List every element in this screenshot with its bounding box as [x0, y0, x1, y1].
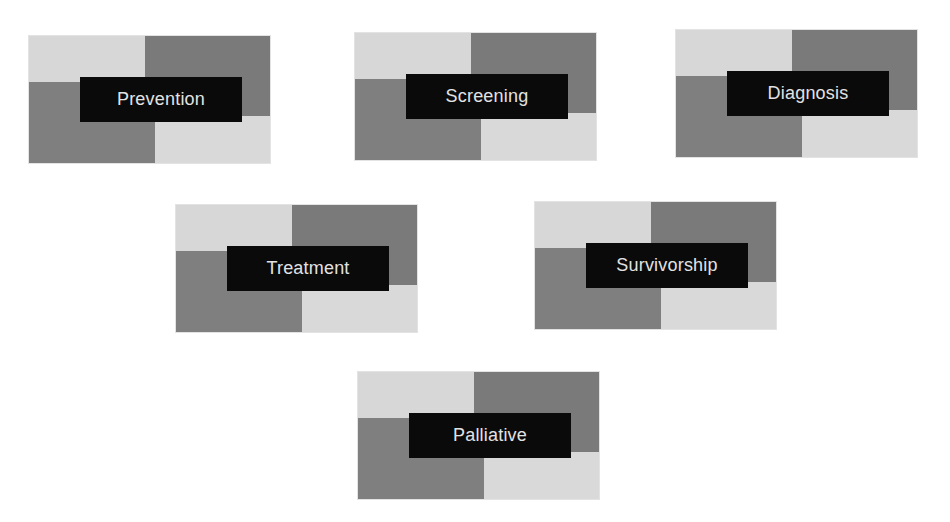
card-treatment[interactable]: Treatment — [176, 205, 417, 332]
quadrant-bottom-right — [484, 452, 599, 499]
quadrant-bottom-right — [661, 282, 776, 329]
quadrant-bottom-right — [302, 285, 417, 332]
quadrant-bottom-right — [481, 113, 596, 160]
card-label: Screening — [406, 74, 568, 119]
quadrant-top-left — [355, 33, 471, 79]
quadrant-top-left — [358, 372, 474, 418]
quadrant-top-left — [176, 205, 292, 251]
card-screening[interactable]: Screening — [355, 33, 596, 160]
card-label: Treatment — [227, 246, 389, 291]
quadrant-bottom-right — [155, 116, 270, 163]
card-diagnosis[interactable]: Diagnosis — [676, 30, 917, 157]
quadrant-top-left — [535, 202, 651, 248]
card-prevention[interactable]: Prevention — [29, 36, 270, 163]
card-palliative[interactable]: Palliative — [358, 372, 599, 499]
card-survivorship[interactable]: Survivorship — [535, 202, 776, 329]
quadrant-top-left — [676, 30, 792, 76]
card-label: Prevention — [80, 77, 242, 122]
quadrant-bottom-right — [802, 110, 917, 157]
quadrant-top-left — [29, 36, 145, 82]
card-label: Palliative — [409, 413, 571, 458]
card-label: Survivorship — [586, 243, 748, 288]
card-label: Diagnosis — [727, 71, 889, 116]
